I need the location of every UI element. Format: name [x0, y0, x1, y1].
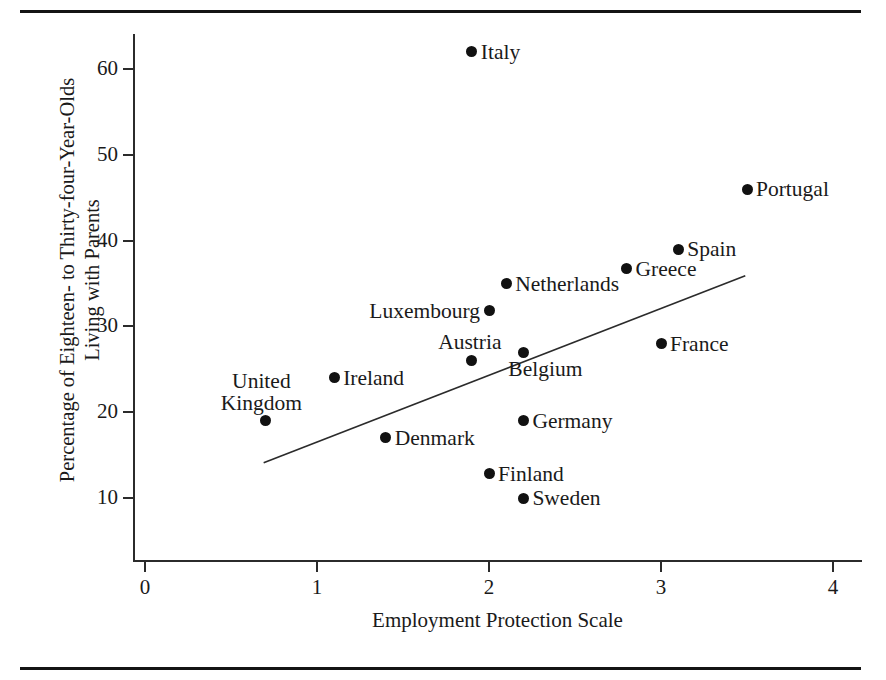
data-point-portugal	[742, 184, 753, 195]
x-tick-3	[660, 561, 662, 572]
data-point-spain	[673, 244, 684, 255]
point-label-italy: Italy	[481, 41, 520, 63]
y-tick-30	[123, 325, 134, 327]
y-tick-40	[123, 240, 134, 242]
y-axis-title-line1: Percentage of Eighteen- to Thirty-four-Y…	[56, 78, 78, 482]
x-tick-1	[316, 561, 318, 572]
point-label-germany: Germany	[532, 410, 612, 432]
point-label-austria: Austria	[438, 331, 501, 353]
x-tick-label-1: 1	[297, 576, 337, 598]
point-label-greece: Greece	[636, 258, 697, 280]
point-label-netherlands: Netherlands	[515, 273, 619, 295]
point-label-finland: Finland	[498, 463, 564, 485]
point-label-sweden: Sweden	[532, 487, 600, 509]
point-label-portugal: Portugal	[756, 178, 829, 200]
x-tick-0	[144, 561, 146, 572]
data-point-belgium	[518, 347, 529, 358]
point-label-united-kingdom-line2: Kingdom	[221, 392, 302, 414]
scatter-plot: 102030405060 01234 ItalyPortugalSpainGre…	[0, 0, 886, 680]
data-point-sweden	[518, 493, 529, 504]
y-tick-20	[123, 411, 134, 413]
point-label-united-kingdom: UnitedKingdom	[221, 370, 302, 414]
point-label-belgium: Belgium	[508, 358, 582, 380]
x-tick-label-0: 0	[125, 576, 165, 598]
y-tick-10	[123, 497, 134, 499]
x-axis-title: Employment Protection Scale	[133, 608, 862, 633]
point-label-france: France	[670, 333, 729, 355]
x-tick-2	[488, 561, 490, 572]
data-point-netherlands	[501, 278, 512, 289]
point-label-ireland: Ireland	[343, 367, 404, 389]
figure-container: 102030405060 01234 ItalyPortugalSpainGre…	[0, 0, 886, 680]
point-label-united-kingdom-line1: United	[221, 370, 302, 392]
x-tick-label-4: 4	[813, 576, 853, 598]
data-point-france	[656, 338, 667, 349]
y-tick-50	[123, 154, 134, 156]
point-label-denmark: Denmark	[395, 427, 475, 449]
y-axis-title-line2: Living with Parents	[80, 30, 105, 530]
data-point-finland	[484, 468, 495, 479]
x-tick-label-3: 3	[641, 576, 681, 598]
y-tick-60	[123, 68, 134, 70]
x-tick-label-2: 2	[469, 576, 509, 598]
point-label-luxembourg: Luxembourg	[369, 300, 480, 322]
data-point-luxembourg	[484, 305, 495, 316]
x-tick-4	[832, 561, 834, 572]
y-axis-title: Percentage of Eighteen- to Thirty-four-Y…	[55, 30, 105, 530]
